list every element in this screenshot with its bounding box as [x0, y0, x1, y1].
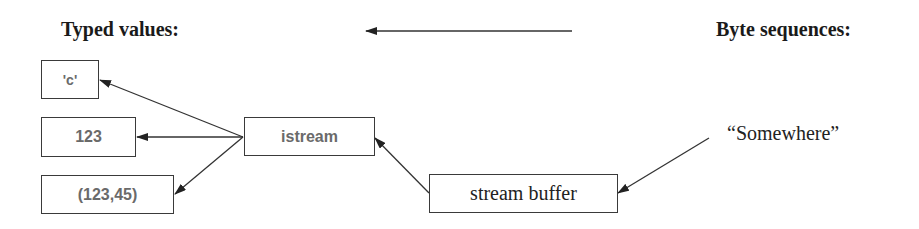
- somewhere-label: “Somewhere”: [727, 122, 839, 145]
- istream-label: istream: [281, 128, 338, 146]
- stream-buffer-box: stream buffer: [429, 174, 618, 213]
- stream-buffer-label: stream buffer: [470, 182, 577, 205]
- arrow-buffer-to-istream: [375, 138, 429, 193]
- typed-value-int-box: 123: [41, 117, 136, 157]
- typed-value-char-label: 'c': [63, 72, 77, 88]
- typed-value-pair-box: (123,45): [41, 175, 174, 214]
- istream-box: istream: [244, 117, 375, 156]
- typed-value-char-box: 'c': [41, 60, 99, 99]
- typed-value-int-label: 123: [75, 128, 102, 146]
- arrow-somewhere-to-buffer: [618, 138, 709, 193]
- typed-value-pair-label: (123,45): [78, 186, 138, 204]
- arrow-istream-to-pair: [175, 137, 243, 194]
- typed-values-heading: Typed values:: [61, 18, 179, 41]
- byte-sequences-heading: Byte sequences:: [716, 18, 851, 41]
